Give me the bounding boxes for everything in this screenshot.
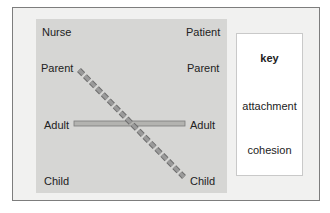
- nurse-child-label: Child: [44, 175, 69, 187]
- key-title: key: [237, 52, 302, 64]
- key-attachment-label: attachment: [237, 100, 302, 112]
- nurse-adult-label: Adult: [44, 119, 69, 131]
- key-legend: key attachment cohesion: [236, 33, 303, 176]
- key-cohesion-label: cohesion: [237, 144, 302, 156]
- nurse-parent-label: Parent: [41, 62, 73, 74]
- nurse-header: Nurse: [42, 26, 71, 38]
- patient-child-label: Child: [190, 175, 215, 187]
- patient-parent-label: Parent: [187, 62, 219, 74]
- patient-adult-label: Adult: [190, 119, 215, 131]
- patient-header: Patient: [186, 26, 220, 38]
